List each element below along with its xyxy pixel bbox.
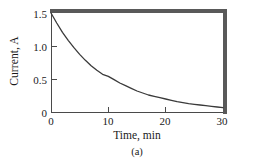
y-tick-label: 0.5 (22, 75, 47, 85)
x-axis-tick-labels: 0 10 20 30 (0, 115, 260, 129)
figure-container: Current, A 1.5 1.0 0.5 0 0 10 20 30 Time… (0, 0, 260, 164)
curve-polyline (51, 13, 223, 108)
plot-frame-right (223, 9, 227, 114)
x-tick-label: 30 (202, 115, 242, 127)
x-axis-label: Time, min (51, 129, 223, 141)
current-decay-curve (51, 13, 223, 113)
y-axis-label: Current, A (4, 6, 24, 116)
figure-caption: (a) (51, 146, 223, 157)
y-axis-tick-labels: 1.5 1.0 0.5 0 (22, 0, 47, 164)
y-tick-label: 1.0 (22, 42, 47, 52)
x-tick-label: 0 (31, 115, 71, 127)
x-tick-label: 20 (145, 115, 185, 127)
x-tick-label: 10 (88, 115, 128, 127)
plot-area (51, 13, 223, 113)
y-tick-label: 1.5 (22, 9, 47, 19)
